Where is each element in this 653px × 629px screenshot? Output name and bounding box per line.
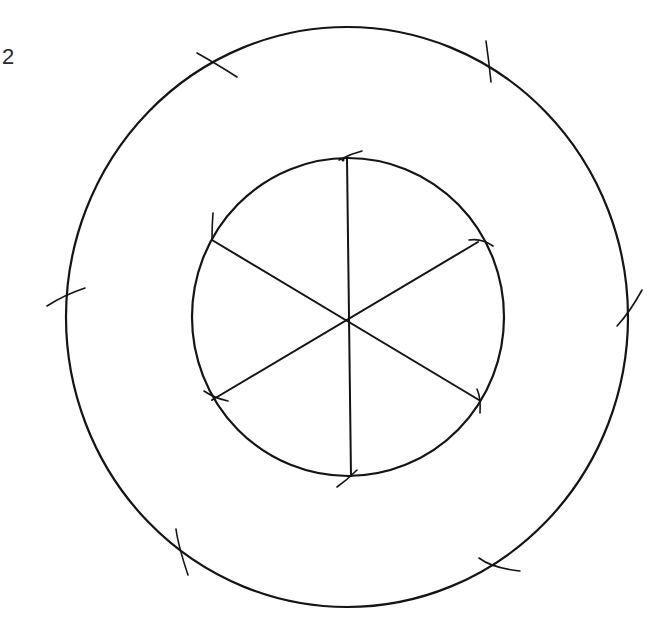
outer-mark-1 bbox=[197, 53, 237, 77]
diameters bbox=[212, 158, 479, 476]
vertex-dot-top bbox=[342, 159, 345, 162]
compass-construction-diagram bbox=[0, 0, 653, 629]
mark-bottom bbox=[337, 470, 357, 487]
outer-mark-4 bbox=[617, 290, 642, 326]
outer-mark-2 bbox=[486, 41, 491, 82]
outer-circle bbox=[66, 27, 628, 607]
mark-bottom-right bbox=[477, 389, 480, 413]
